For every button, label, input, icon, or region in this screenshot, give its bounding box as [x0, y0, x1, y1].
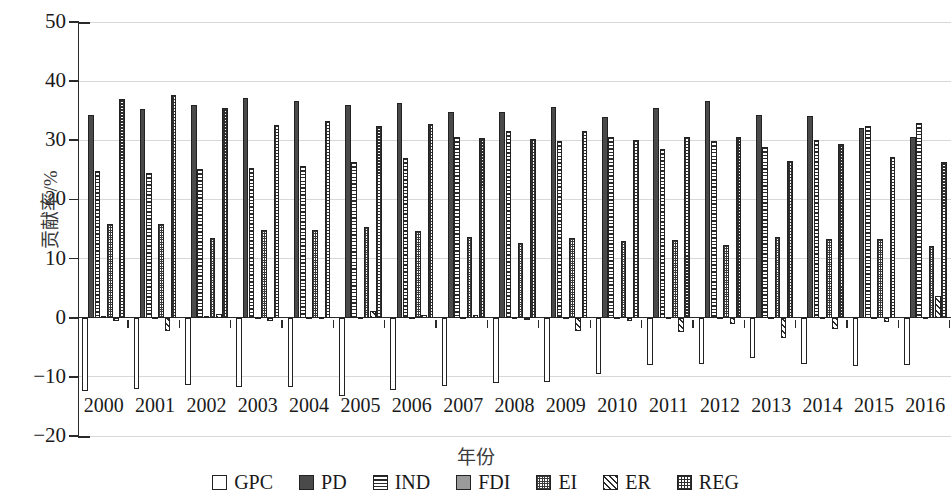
bar-ei-2009 [569, 238, 575, 318]
bar-gpc-2004 [288, 318, 294, 387]
bar-fdi-2008 [512, 317, 518, 319]
bar-gpc-2015 [853, 318, 859, 366]
bar-reg-2015 [890, 157, 896, 318]
bar-fdi-2015 [871, 317, 877, 319]
legend-swatch-pd-icon [299, 475, 314, 490]
x-axis-tick-label: 2015 [848, 393, 900, 417]
x-axis-tick-label: 2006 [386, 393, 438, 417]
bar-gpc-2012 [699, 318, 705, 365]
y-axis-title: 贡献率/% [35, 150, 62, 270]
x-axis-tick-label: 2002 [180, 393, 232, 417]
bar-pd-2011 [653, 108, 659, 318]
bar-gpc-2013 [750, 318, 756, 358]
bar-gpc-2009 [544, 318, 550, 382]
bar-er-2011 [678, 318, 684, 332]
bar-fdi-2009 [563, 317, 569, 319]
x-axis-tick [538, 320, 539, 328]
legend-item-reg[interactable]: REG [677, 472, 739, 492]
x-axis-tick-label: 2008 [489, 393, 541, 417]
bar-er-2014 [832, 318, 838, 329]
bar-er-2010 [627, 318, 633, 322]
bar-er-2004 [319, 317, 325, 319]
bar-ei-2013 [775, 237, 781, 318]
y-axis-tick [69, 376, 79, 378]
bar-ind-2009 [557, 141, 563, 317]
bar-reg-2016 [941, 162, 947, 318]
bar-pd-2010 [602, 117, 608, 318]
legend-item-ei[interactable]: EI [536, 472, 577, 492]
y-axis-tick [69, 80, 79, 82]
y-axis-tick [69, 139, 79, 141]
legend-item-pd[interactable]: PD [299, 472, 347, 492]
y-axis-tick [69, 199, 79, 201]
x-axis-tick-label: 2003 [232, 393, 284, 417]
bar-ind-2007 [454, 137, 460, 318]
x-axis-tick-label: 2000 [78, 393, 130, 417]
x-axis-tick [230, 320, 231, 328]
bar-ei-2015 [877, 239, 883, 318]
x-axis-tick-label: 2004 [283, 393, 335, 417]
legend-swatch-reg-icon [677, 475, 692, 490]
bar-ei-2001 [158, 224, 164, 318]
bar-er-2007 [473, 315, 479, 318]
legend-item-gpc[interactable]: GPC [212, 472, 273, 492]
bar-er-2001 [165, 318, 171, 331]
x-axis-tick-label: 2010 [591, 393, 643, 417]
bar-ind-2003 [249, 168, 255, 318]
x-axis-tick-label: 2009 [540, 393, 592, 417]
x-axis-tick [179, 320, 180, 328]
bar-er-2013 [781, 318, 787, 338]
bar-fdi-2004 [306, 317, 312, 319]
bar-ind-2006 [403, 158, 409, 318]
bar-reg-2011 [684, 137, 690, 317]
legend-item-fdi[interactable]: FDI [456, 472, 510, 492]
bar-ei-2004 [312, 230, 318, 318]
bar-reg-2009 [582, 131, 588, 317]
bar-ind-2008 [506, 131, 512, 317]
legend-item-er[interactable]: ER [603, 472, 651, 492]
bar-pd-2002 [191, 105, 197, 317]
bar-ind-2005 [351, 162, 357, 318]
bar-ei-2002 [210, 238, 216, 317]
x-axis-title: 年份 [0, 442, 951, 469]
bar-pd-2004 [294, 101, 300, 317]
bar-ind-2002 [197, 169, 203, 317]
legend-label: GPC [234, 472, 273, 492]
x-axis-tick [333, 320, 334, 328]
legend-swatch-ei-icon [536, 475, 551, 490]
legend-label: PD [321, 472, 347, 492]
bar-fdi-2005 [358, 317, 364, 319]
x-axis-tick-label: 2011 [643, 393, 695, 417]
bar-pd-2005 [345, 105, 351, 318]
bar-reg-2006 [428, 124, 434, 317]
bar-gpc-2005 [339, 318, 345, 397]
x-axis-tick-label: 2014 [797, 393, 849, 417]
bar-ind-2014 [814, 140, 820, 318]
bar-ei-2000 [107, 224, 113, 317]
bar-er-2000 [113, 318, 119, 321]
bar-gpc-2002 [185, 318, 191, 385]
bar-fdi-2006 [409, 317, 415, 319]
x-axis-tick [898, 320, 899, 328]
x-axis-tick [281, 320, 282, 328]
legend-label: REG [699, 472, 739, 492]
y-axis-tick [69, 435, 79, 437]
bar-gpc-2001 [134, 318, 140, 389]
bar-gpc-2006 [390, 318, 396, 390]
legend-item-ind[interactable]: IND [373, 472, 431, 492]
bar-gpc-2016 [904, 318, 910, 365]
bar-pd-2012 [705, 101, 711, 317]
bar-ind-2010 [608, 137, 614, 317]
bar-pd-2009 [551, 107, 557, 318]
bar-er-2008 [524, 318, 530, 320]
bar-reg-2013 [787, 161, 793, 318]
bar-reg-2002 [222, 108, 228, 317]
bar-ind-2011 [660, 149, 666, 318]
bars-layer [0, 0, 951, 497]
bar-pd-2015 [859, 128, 865, 317]
legend-label: IND [395, 472, 431, 492]
bar-ei-2008 [518, 243, 524, 318]
legend-swatch-er-icon [603, 475, 618, 490]
bar-ei-2005 [364, 227, 370, 317]
bar-fdi-2011 [666, 317, 672, 319]
